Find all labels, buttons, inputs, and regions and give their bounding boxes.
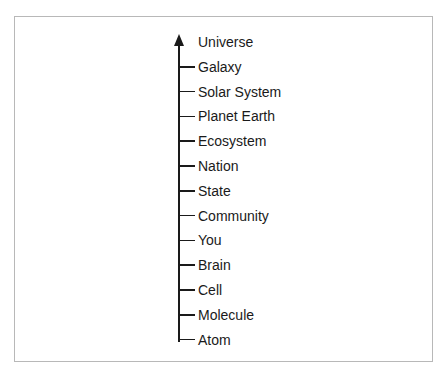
hierarchy-level: You [179,230,222,250]
hierarchy-level: State [179,181,231,201]
hierarchy-level: Solar System [179,82,281,102]
tick-mark [179,215,195,217]
level-label: Molecule [198,307,254,323]
tick-mark [179,240,195,242]
level-label: Brain [198,257,231,273]
level-label: Atom [198,332,231,348]
level-label: Community [198,208,269,224]
tick-mark [179,66,195,68]
hierarchy-level: Molecule [179,305,254,325]
tick-mark [179,314,195,316]
level-label: Solar System [198,84,281,100]
level-label: Cell [198,282,222,298]
level-label: Galaxy [198,59,242,75]
hierarchy-level: Planet Earth [179,106,275,126]
hierarchy-level: Galaxy [179,57,242,77]
tick-mark [179,91,195,93]
hierarchy-level: Atom [179,330,231,350]
tick-mark [179,264,195,266]
level-label: State [198,183,231,199]
hierarchy-level: Community [179,206,269,226]
tick-mark [179,190,195,192]
level-label: Nation [198,158,238,174]
level-label: Planet Earth [198,108,275,124]
level-label: Ecosystem [198,133,266,149]
hierarchy-level: Ecosystem [179,131,266,151]
hierarchy-level: Cell [179,280,222,300]
tick-mark [179,116,195,118]
tick-mark [179,289,195,291]
tick-mark [179,339,195,341]
tick-mark [179,165,195,167]
tick-mark [179,140,195,142]
level-label: You [198,232,222,248]
hierarchy-level: Nation [179,156,238,176]
level-label: Universe [198,34,253,50]
hierarchy-level: Universe [179,32,253,52]
hierarchy-level: Brain [179,255,231,275]
